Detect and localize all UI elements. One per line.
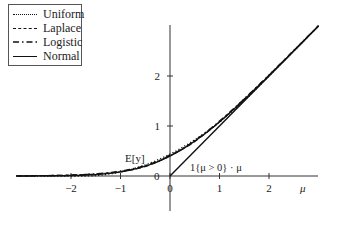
dashed-line-icon (13, 28, 37, 29)
legend-item-uniform: Uniform (13, 7, 84, 21)
x-tick-label: −2 (65, 182, 77, 194)
dashdot-line-icon (13, 40, 37, 44)
solid-line-icon (13, 56, 37, 57)
legend-item-logistic: Logistic (13, 35, 82, 49)
legend: Uniform Laplace Logistic Normal (8, 4, 82, 66)
legend-label: Normal (43, 49, 80, 63)
legend-item-laplace: Laplace (13, 21, 81, 35)
x-tick-label: −1 (115, 182, 127, 194)
y-zero-label: 0 (154, 170, 160, 182)
legend-label: Uniform (43, 7, 84, 21)
x-axis-label: μ (300, 182, 306, 194)
indicator-label: 1{μ > 0} · μ (190, 162, 242, 174)
expectation-label: E[y] (125, 152, 145, 164)
legend-item-normal: Normal (13, 49, 80, 63)
legend-label: Logistic (43, 35, 82, 49)
series-- (170, 26, 319, 176)
dotted-line-icon (13, 14, 37, 15)
x-tick-label: 2 (266, 182, 272, 194)
x-tick-label: 0 (167, 182, 173, 194)
x-tick-label: 1 (217, 182, 223, 194)
y-tick-label: 2 (155, 70, 161, 82)
legend-label: Laplace (43, 21, 81, 35)
y-tick-label: 1 (155, 120, 161, 132)
